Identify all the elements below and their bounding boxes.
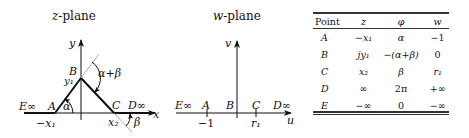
cell-point: A xyxy=(313,29,351,46)
point-C-label-w: C xyxy=(252,99,261,112)
header-w: w xyxy=(426,14,449,29)
header-z: z xyxy=(351,14,376,29)
neg-one-label: −1 xyxy=(198,117,214,130)
table-row: D ∞ 2π +∞ xyxy=(313,80,449,97)
v-axis-label: v xyxy=(225,37,232,50)
cell-w: r₁ xyxy=(426,63,449,80)
cell-z: ∞ xyxy=(351,80,376,97)
point-B-label-w: B xyxy=(225,99,234,112)
cell-w: −1 xyxy=(426,29,449,46)
cell-w: 0 xyxy=(426,46,449,63)
E-infinity-label-w: E∞ xyxy=(174,99,192,112)
u-axis-label: u xyxy=(287,114,294,127)
point-A-label-w: A xyxy=(201,99,210,112)
table-row: B jy₁ −(α+β) 0 xyxy=(313,46,449,63)
table-row: A −x₁ α −1 xyxy=(313,29,449,46)
cell-phi: β xyxy=(376,63,426,80)
cell-z: jy₁ xyxy=(351,46,376,63)
header-phi: φ xyxy=(376,14,426,29)
cell-w: +∞ xyxy=(426,80,449,97)
cell-z: x₂ xyxy=(351,63,376,80)
cell-phi: 2π xyxy=(376,80,426,97)
table-row: C x₂ β r₁ xyxy=(313,63,449,80)
cell-point: B xyxy=(313,46,351,63)
mapping-table: Point z φ w A −x₁ α −1 B jy₁ −(α+β) 0 C … xyxy=(313,14,449,114)
D-infinity-label-w: D∞ xyxy=(272,99,291,112)
r1-label: r₁ xyxy=(251,117,261,130)
table-bottom-rule-2 xyxy=(313,114,449,115)
cell-phi: −(α+β) xyxy=(376,46,426,63)
cell-z: −x₁ xyxy=(351,29,376,46)
cell-phi: α xyxy=(376,29,426,46)
table-bottom-rule-1 xyxy=(313,111,449,113)
cell-point: C xyxy=(313,63,351,80)
header-point: Point xyxy=(313,14,351,29)
cell-point: D xyxy=(313,80,351,97)
table-header-row: Point z φ w xyxy=(313,14,449,29)
